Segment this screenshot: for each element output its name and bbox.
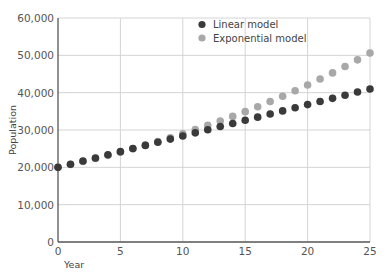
y-tick-label: 50,000 — [17, 49, 54, 61]
linear-point — [254, 113, 262, 121]
exponential-point — [316, 75, 324, 83]
exponential-point — [341, 63, 349, 71]
linear-point — [154, 138, 162, 146]
linear-point — [229, 120, 237, 128]
y-tick-label: 30,000 — [17, 124, 54, 136]
x-tick-label: 5 — [117, 245, 124, 257]
x-tick-label: 0 — [55, 245, 62, 257]
linear-point — [216, 123, 224, 131]
y-axis-ticks: 010,00020,00030,00040,00050,00060,000 — [17, 12, 54, 248]
linear-point — [167, 135, 175, 143]
exponential-point — [329, 69, 337, 77]
linear-point — [279, 107, 287, 115]
y-tick-label: 60,000 — [17, 12, 54, 24]
exponential-point — [366, 49, 374, 57]
linear-point — [366, 85, 374, 93]
y-tick-label: 0 — [47, 236, 54, 248]
y-tick-label: 10,000 — [17, 199, 54, 211]
linear-point — [142, 142, 150, 150]
exponential-point — [266, 98, 274, 106]
linear-point — [191, 129, 199, 137]
linear-point — [117, 148, 125, 156]
linear-point — [204, 126, 212, 134]
linear-point — [266, 110, 274, 118]
y-tick-label: 40,000 — [17, 87, 54, 99]
legend-label-exponential: Exponential model — [213, 33, 306, 44]
legend-marker-linear — [198, 21, 205, 28]
linear-point — [104, 151, 112, 159]
linear-point — [329, 95, 337, 103]
exponential-point — [241, 108, 249, 116]
linear-point — [92, 154, 100, 162]
legend: Linear model Exponential model — [198, 19, 306, 44]
x-tick-label: 10 — [176, 245, 189, 257]
data-points — [54, 49, 374, 171]
exponential-point — [304, 81, 312, 89]
x-axis-ticks: 0510152025 — [55, 245, 377, 257]
exponential-point — [291, 87, 299, 95]
x-axis-label: Year — [63, 259, 84, 270]
population-chart: 010,00020,00030,00040,00050,00060,000 05… — [0, 0, 388, 276]
linear-point — [341, 91, 349, 99]
linear-point — [179, 132, 187, 140]
x-tick-label: 25 — [363, 245, 376, 257]
linear-point — [67, 160, 75, 168]
linear-point — [304, 101, 312, 109]
linear-point — [54, 164, 62, 172]
legend-marker-exponential — [198, 34, 205, 41]
linear-point — [354, 88, 362, 96]
y-axis-label: Population — [7, 105, 18, 155]
grid-lines — [58, 18, 370, 242]
exponential-point — [254, 103, 262, 111]
x-tick-label: 20 — [301, 245, 314, 257]
legend-label-linear: Linear model — [213, 19, 278, 30]
x-tick-label: 15 — [239, 245, 252, 257]
linear-point — [79, 157, 87, 165]
exponential-point — [354, 56, 362, 64]
linear-point — [129, 145, 137, 153]
y-tick-label: 20,000 — [17, 161, 54, 173]
linear-point — [316, 98, 324, 106]
exponential-point — [279, 92, 287, 100]
linear-point — [241, 116, 249, 124]
exponential-point — [229, 113, 237, 121]
linear-point — [291, 104, 299, 112]
